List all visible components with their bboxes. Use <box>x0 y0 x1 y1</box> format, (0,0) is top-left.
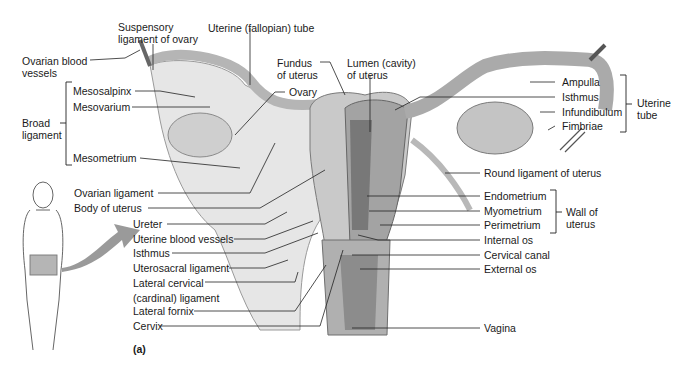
uterus-anatomy-diagram: Suspensory ligament of ovary Uterine (fa… <box>0 0 693 373</box>
label-wall-of-uterus: Wall of uterus <box>566 206 598 230</box>
label-line: Fundus <box>277 57 318 69</box>
curved-arrow-icon <box>62 224 140 272</box>
label-ureter: Ureter <box>133 218 162 230</box>
label-body-of-uterus: Body of uterus <box>74 202 142 214</box>
label-vagina: Vagina <box>484 322 516 334</box>
label-ovarian-blood-vessels: Ovarian blood vessels <box>22 55 87 79</box>
label-line: Lumen (cavity) <box>347 57 416 69</box>
label-broad-ligament: Broad ligament <box>22 117 62 141</box>
label-uterosacral-ligament: Uterosacral ligament <box>133 262 229 274</box>
label-line: (cardinal) ligament <box>133 292 219 304</box>
label-round-ligament: Round ligament of uterus <box>484 167 601 179</box>
body-orientation-figure <box>23 182 63 350</box>
label-uterine-fallopian-tube: Uterine (fallopian) tube <box>208 22 314 34</box>
label-myometrium: Myometrium <box>484 205 542 217</box>
label-ovary: Ovary <box>289 86 317 98</box>
label-line: Wall of <box>566 206 598 218</box>
label-lateral-fornix: Lateral fornix <box>133 305 194 317</box>
label-fundus: Fundus of uterus <box>277 57 318 81</box>
label-line: tube <box>637 109 671 121</box>
label-mesometrium: Mesometrium <box>73 152 137 164</box>
label-ampulla: Ampulla <box>562 76 600 88</box>
label-line: ligament of ovary <box>118 33 198 45</box>
label-lateral-cervical-ligament: Lateral cervical (cardinal) ligament <box>133 277 219 304</box>
label-uterine-blood-vessels: Uterine blood vessels <box>133 233 233 245</box>
label-line: Lateral cervical <box>133 277 219 289</box>
label-suspensory-ligament: Suspensory ligament of ovary <box>118 21 198 45</box>
label-cervical-canal: Cervical canal <box>484 249 550 261</box>
label-ovarian-ligament: Ovarian ligament <box>74 187 153 199</box>
label-isthmus-tube: Isthmus <box>562 91 599 103</box>
label-isthmus-uterus: Isthmus <box>133 247 170 259</box>
label-line: vessels <box>22 67 87 79</box>
label-line: of uterus <box>347 69 416 81</box>
label-mesosalpinx: Mesosalpinx <box>73 85 131 97</box>
label-line: ligament <box>22 129 62 141</box>
label-lumen: Lumen (cavity) of uterus <box>347 57 416 81</box>
label-endometrium: Endometrium <box>484 190 546 202</box>
label-cervix: Cervix <box>133 320 163 332</box>
label-fimbriae: Fimbriae <box>562 120 603 132</box>
label-infundibulum: Infundibulum <box>562 106 622 118</box>
label-mesovarium: Mesovarium <box>73 101 130 113</box>
label-line: of uterus <box>277 69 318 81</box>
label-uterine-tube: Uterine tube <box>637 97 671 121</box>
label-line: Broad <box>22 117 62 129</box>
label-perimetrium: Perimetrium <box>484 219 541 231</box>
label-external-os: External os <box>484 263 537 275</box>
label-line: uterus <box>566 218 598 230</box>
panel-label: (a) <box>133 343 146 355</box>
label-internal-os: Internal os <box>484 234 533 246</box>
label-line: Ovarian blood <box>22 55 87 67</box>
label-line: Suspensory <box>118 21 198 33</box>
label-line: Uterine <box>637 97 671 109</box>
